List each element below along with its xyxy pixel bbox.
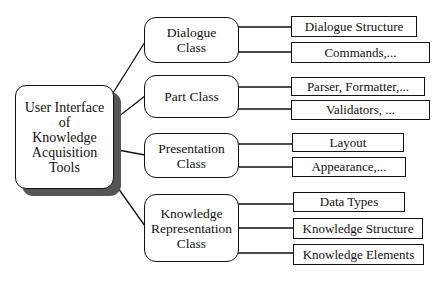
- leaf-commands: Commands,...: [291, 42, 430, 63]
- class-node-knowledge-representation: Knowledge Representation Class: [144, 194, 239, 262]
- leaf-label: Layout: [330, 136, 367, 150]
- root-label: User Interface of Knowledge Acquisition …: [25, 100, 105, 175]
- connector-root-dialogue: [113, 42, 145, 93]
- leaf-knowledge-elements: Knowledge Elements: [293, 244, 424, 265]
- leaf-appearance: Appearance,...: [292, 157, 406, 177]
- diagram-canvas: User Interface of Knowledge Acquisition …: [0, 0, 442, 281]
- connector-root-part: [118, 96, 145, 117]
- root-label-line: Tools: [25, 160, 105, 175]
- class-node-part: Part Class: [144, 75, 239, 118]
- class-label-line: Part Class: [164, 89, 218, 104]
- class-label-line: Representation: [151, 221, 232, 236]
- root-node: User Interface of Knowledge Acquisition …: [15, 85, 114, 189]
- leaf-data-types: Data Types: [293, 192, 405, 212]
- leaf-validators: Validators, ...: [291, 100, 430, 120]
- class-node-presentation: Presentation Class: [144, 133, 239, 178]
- root-label-line: Acquisition: [25, 145, 105, 160]
- class-label-line: Presentation: [158, 141, 225, 156]
- class-label-line: Dialogue: [167, 25, 217, 40]
- leaf-label: Dialogue Structure: [305, 20, 404, 34]
- leaf-label: Validators, ...: [326, 103, 395, 117]
- connector-root-presentation: [118, 150, 145, 155]
- leaf-knowledge-structure: Knowledge Structure: [293, 218, 423, 239]
- leaf-layout: Layout: [292, 133, 404, 152]
- leaf-dialogue-structure: Dialogue Structure: [291, 16, 417, 37]
- leaf-parser-formatter: Parser, Formatter,...: [291, 77, 425, 96]
- leaf-label: Knowledge Elements: [303, 248, 415, 262]
- connector-root-kr: [118, 188, 145, 226]
- leaf-label: Commands,...: [324, 46, 396, 60]
- class-label-line: Class: [167, 40, 217, 55]
- root-label-line: of: [25, 115, 105, 130]
- class-label-line: Class: [158, 156, 225, 171]
- leaf-label: Data Types: [320, 195, 378, 209]
- leaf-label: Parser, Formatter,...: [307, 80, 409, 94]
- leaf-label: Knowledge Structure: [303, 222, 414, 236]
- root-label-line: Knowledge: [25, 130, 105, 145]
- class-node-dialogue: Dialogue Class: [144, 17, 239, 63]
- leaf-label: Appearance,...: [311, 160, 386, 174]
- class-label-line: Knowledge: [151, 206, 232, 221]
- root-label-line: User Interface: [25, 100, 105, 115]
- class-label-line: Class: [151, 236, 232, 251]
